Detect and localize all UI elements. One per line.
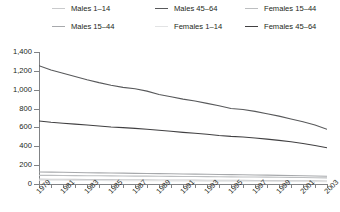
legend-label: Males 1–14 bbox=[71, 4, 110, 13]
legend-label: Males 45–64 bbox=[174, 4, 217, 13]
y-tick-label: 400 bbox=[2, 142, 32, 150]
legend-item-1: Males 15–44 bbox=[52, 22, 114, 31]
y-tick-label: 200 bbox=[2, 161, 32, 169]
y-tick-label: 600 bbox=[2, 123, 32, 131]
legend-swatch-icon bbox=[155, 8, 168, 9]
legend-swatch-icon bbox=[245, 26, 258, 27]
y-axis-labels: 1,4001,2001,0008006004002000 bbox=[0, 0, 32, 212]
x-tick-label: 1979 bbox=[35, 178, 52, 195]
chart-legend: Males 1–14Males 15–44Males 45–64Females … bbox=[0, 0, 334, 42]
y-tick-label: 1,400 bbox=[2, 48, 32, 56]
legend-label: Males 15–44 bbox=[71, 22, 114, 31]
legend-swatch-icon bbox=[52, 26, 65, 27]
legend-item-0: Males 1–14 bbox=[52, 4, 110, 13]
legend-item-4: Females 15–44 bbox=[245, 4, 316, 13]
legend-swatch-icon bbox=[52, 8, 65, 9]
y-tick-label: 1,200 bbox=[2, 67, 32, 75]
y-tick-label: 800 bbox=[2, 105, 32, 113]
legend-label: Females 45–64 bbox=[264, 22, 316, 31]
legend-item-3: Females 1–14 bbox=[155, 22, 222, 31]
series-line bbox=[39, 121, 327, 148]
legend-label: Females 15–44 bbox=[264, 4, 316, 13]
legend-item-5: Females 45–64 bbox=[245, 22, 316, 31]
legend-label: Females 1–14 bbox=[174, 22, 222, 31]
y-tick-label: 0 bbox=[2, 180, 32, 188]
legend-swatch-icon bbox=[155, 26, 168, 27]
chart-plot-area bbox=[39, 52, 327, 184]
series-line bbox=[39, 66, 327, 130]
legend-swatch-icon bbox=[245, 8, 258, 9]
y-tick-label: 1,000 bbox=[2, 86, 32, 94]
legend-item-2: Males 45–64 bbox=[155, 4, 217, 13]
